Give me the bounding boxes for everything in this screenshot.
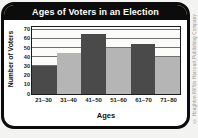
page: { "page": { "credit": "© Houghton Miffli… [0, 0, 198, 138]
bar-series [32, 27, 180, 94]
bar-41–50 [81, 34, 106, 94]
bar-51–60 [106, 48, 131, 94]
y-tick-60: 60 [18, 36, 30, 41]
plot-area [31, 26, 181, 95]
x-tick-41–50: 41–50 [81, 97, 106, 103]
x-tick-71–80: 71–80 [156, 97, 181, 103]
y-tick-40: 40 [18, 55, 30, 60]
bar-21–30 [32, 66, 57, 94]
x-tick-31–40: 31–40 [56, 97, 81, 103]
y-tick-50: 50 [18, 46, 30, 51]
y-tick-70: 70 [18, 27, 30, 32]
bar-71–80 [155, 57, 180, 94]
y-tick-30: 30 [18, 64, 30, 69]
x-tick-61–70: 61–70 [131, 97, 156, 103]
bar-61–70 [131, 44, 156, 94]
y-axis-title: Number of Voters [7, 28, 17, 90]
x-tick-51–60: 51–60 [106, 97, 131, 103]
y-tick-20: 20 [18, 73, 30, 78]
chart-title: Ages of Voters in an Election [4, 5, 187, 20]
x-tick-21–30: 21–30 [31, 97, 56, 103]
x-axis-title: Ages [31, 111, 181, 120]
x-tick-labels: 21–3031–4041–5051–6061–7071–80 [31, 97, 181, 103]
chart-area: Number of Voters 010203040506070 21–3031… [4, 20, 187, 126]
bar-31–40 [57, 53, 82, 94]
y-tick-0: 0 [18, 92, 30, 97]
y-tick-10: 10 [18, 82, 30, 87]
credit-text: © Houghton Mifflin Harcourt Publishing C… [191, 0, 198, 138]
chart-card: Ages of Voters in an Election Number of … [1, 2, 190, 129]
